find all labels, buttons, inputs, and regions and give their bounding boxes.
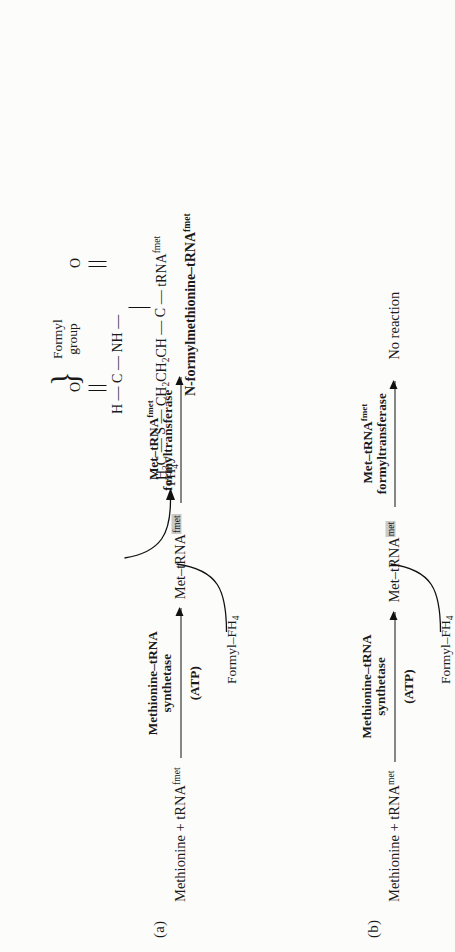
chain-CH2CH2CH: CH2CH2CH (153, 338, 168, 406)
bond-dash: — (109, 356, 124, 370)
substrate-b: Methionine + tRNAmet (386, 771, 401, 902)
chain-sub-2: 2 (160, 358, 170, 363)
double-bond-carbonyl (88, 261, 106, 267)
panel-b: (b) Methionine + tRNAmet Methionine–tRNA… (214, 0, 427, 952)
enzyme-step1-a-l2: synthetase (158, 654, 173, 713)
substrate-a-text: Methionine + tRNA (172, 785, 188, 902)
enzyme-step1-b-l1: Methionine–tRNA (358, 635, 373, 739)
atom-H3C-c: C (153, 456, 168, 465)
atom-NH: NH (109, 332, 124, 352)
cofactor-step1-a: (ATP) (187, 608, 202, 758)
atom-H3C-sub: 3 (160, 465, 170, 470)
cofactor-step1-b: (ATP) (401, 612, 416, 762)
atom-H: H (109, 404, 124, 414)
bond-dash: — (153, 409, 168, 423)
substrate-a-sup: fmet (171, 767, 181, 785)
substrate-b-sup: met (385, 771, 395, 786)
bond-NH-to-backbone (128, 307, 150, 308)
bond-dash: — (109, 315, 124, 329)
atom-H3C: H3C (153, 456, 168, 480)
enzyme-step1-b: Methionine–tRNA synthetase (359, 612, 388, 762)
enzyme-step1-a: Methionine–tRNA synthetase (145, 608, 174, 758)
intermediate-a-text: Met–tRNA (172, 534, 188, 599)
atom-S: S (153, 427, 168, 435)
enzyme-step2-b-l2: formyltransferase (373, 393, 388, 494)
product-b: No reaction (386, 292, 401, 360)
chain-ch-2: CH (153, 362, 168, 381)
bond-dash: — (153, 321, 168, 335)
struct-row-backbone: H3C — S — CH2CH2CH — C — tRNAfmet (152, 236, 171, 480)
substrate-b-text: Methionine + tRNA (386, 785, 402, 902)
product-name-a-sup: fmet (181, 213, 191, 231)
atom-C-carbonyl-backbone: C (153, 308, 168, 317)
bond-dash: — (153, 290, 168, 304)
enzyme-step2-b: Met–tRNAfmet formyltransferase (359, 381, 389, 507)
reaction-chain-b: Methionine + tRNAmet Methionine–tRNA syn… (386, 292, 401, 902)
product-name-a: N-formylmethionine–tRNAfmet (182, 213, 198, 396)
substrate-a: Methionine + tRNAfmet (172, 767, 187, 902)
atom-H3C-h: H (153, 470, 168, 480)
arrow-line (394, 612, 395, 762)
bond-dash: — (109, 386, 124, 400)
enzyme-step1-b-l2: synthetase (372, 657, 387, 716)
formyl-caption-l2: group (64, 323, 79, 355)
chain-sub-1: 2 (160, 382, 170, 387)
reagent-in-b: Formyl–FH4 (438, 615, 455, 684)
product-structure-a: } Formyl group O O H — C — NH — (16, 0, 206, 392)
enzyme-step1-a-l1: Methionine–tRNA (144, 631, 159, 735)
intermediate-a-sup: fmet (171, 514, 181, 534)
reagent-in-b-text: Formyl–FH (437, 620, 452, 684)
intermediate-b-text: Met–tRNA (386, 537, 402, 602)
intermediate-b: Met–tRNAmet (386, 521, 401, 603)
enzyme-step2-b-l1: Met–tRNA (359, 421, 374, 483)
arrow-line (180, 608, 181, 758)
arrow-line (394, 381, 395, 507)
chain-ch-1: CH (153, 387, 168, 406)
group-tRNA-text: tRNA (153, 253, 168, 286)
product-name-a-text: N-formylmethionine–tRNA (183, 232, 198, 396)
atom-O-formyl: O (68, 382, 82, 392)
atom-C-formyl: C (109, 374, 124, 383)
group-tRNA-sup: fmet (151, 236, 161, 253)
enzyme-step2-b-l1-sup: fmet (358, 404, 368, 422)
formyl-group-caption: Formyl group (50, 308, 80, 370)
atom-O-carbonyl: O (67, 258, 82, 268)
bond-dash: — (153, 438, 168, 452)
arrow-head-icon (389, 611, 397, 620)
double-bond-formyl (88, 385, 106, 391)
panel-b-label: (b) (364, 920, 381, 938)
panel-a: (a) Methionine + tRNAfmet Methionine–tRN… (0, 0, 214, 952)
formyl-caption-l1: Formyl (49, 319, 64, 359)
reagent-in-b-sub: 4 (445, 615, 455, 620)
chain-ch-3: CH (153, 338, 168, 357)
struct-row-middle: H — C — NH — (110, 315, 124, 414)
intermediate-a: Met–tRNAfmet (172, 514, 187, 599)
intermediate-b-sup: met (385, 521, 395, 538)
arrow-head-icon (389, 380, 397, 389)
arrow-head-icon (175, 607, 183, 616)
reaction-chain-a: Methionine + tRNAfmet Methionine–tRNA sy… (172, 368, 187, 902)
panel-a-label: (a) (150, 921, 167, 938)
struct-row-carbonyl-O: O (68, 258, 82, 268)
group-tRNA: tRNAfmet (153, 236, 168, 287)
